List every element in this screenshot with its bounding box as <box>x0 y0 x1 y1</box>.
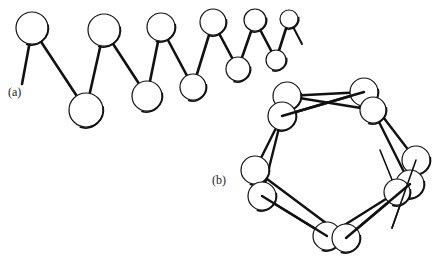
chain-sphere <box>69 93 103 128</box>
chain-sphere <box>132 81 163 112</box>
chain-sphere <box>280 10 299 29</box>
chain-sphere <box>88 14 120 47</box>
ring-sphere <box>241 156 270 185</box>
chain-sphere <box>16 12 48 45</box>
chain-sphere <box>244 9 267 32</box>
chain-sphere <box>226 57 251 82</box>
chain-sphere <box>147 13 176 42</box>
chain-sphere <box>180 74 207 101</box>
ring-sphere <box>360 97 387 124</box>
chain-sphere <box>200 9 227 36</box>
helix-illustration <box>0 0 444 263</box>
panel-a-label: (a) <box>8 85 21 100</box>
chain-sphere <box>266 50 287 71</box>
panel-b-label: (b) <box>212 173 226 188</box>
ring-bond-front <box>346 184 410 238</box>
diagram-canvas: (a) (b) <box>0 0 444 263</box>
